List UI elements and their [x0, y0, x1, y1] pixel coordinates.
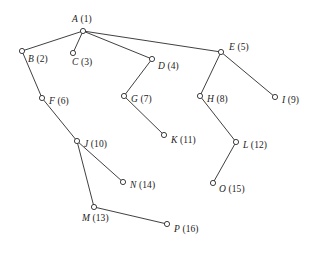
node-label-number-f: (6) — [55, 96, 69, 106]
node-circle-i[interactable] — [272, 94, 277, 99]
node-circle-g[interactable] — [121, 93, 126, 98]
node-label-number-n: (14) — [136, 180, 155, 190]
node-label-h: H (8) — [207, 95, 228, 105]
node-label-number-a: (1) — [78, 14, 92, 24]
node-label-number-b: (2) — [34, 54, 48, 64]
node-circle-o[interactable] — [210, 180, 215, 185]
node-label-l: L (12) — [243, 141, 267, 151]
node-label-o: O (15) — [219, 185, 245, 195]
node-circle-j[interactable] — [74, 138, 79, 143]
tree-graph-canvas — [0, 0, 320, 254]
node-label-number-i: (9) — [285, 95, 299, 105]
node-circle-n[interactable] — [120, 179, 125, 184]
node-label-m: M (13) — [82, 214, 109, 224]
node-label-number-j: (10) — [88, 139, 107, 149]
edge-d-g — [124, 59, 152, 96]
node-label-j: J (10) — [84, 140, 107, 150]
node-label-d: D (4) — [158, 62, 179, 72]
node-label-number-o: (15) — [226, 184, 245, 194]
node-label-number-d: (4) — [165, 61, 179, 71]
node-label-n: N (14) — [130, 181, 155, 191]
node-label-letter-o: O — [219, 184, 226, 194]
node-label-c: C (3) — [72, 58, 92, 68]
node-label-b: B (2) — [28, 55, 48, 65]
node-label-number-c: (3) — [78, 57, 92, 67]
node-label-number-m: (13) — [90, 213, 109, 223]
node-circle-e[interactable] — [218, 49, 223, 54]
tree-diagram: A (1)B (2)C (3)D (4)E (5)F (6)G (7)H (8)… — [0, 0, 320, 254]
nodes-group — [19, 28, 277, 226]
edge-l-o — [213, 142, 236, 183]
node-circle-c[interactable] — [70, 50, 75, 55]
node-label-number-h: (8) — [214, 94, 228, 104]
edge-a-b — [22, 31, 83, 51]
edge-e-i — [221, 52, 275, 97]
node-circle-h[interactable] — [197, 93, 202, 98]
node-label-letter-h: H — [207, 94, 214, 104]
node-label-i: I (9) — [282, 96, 299, 106]
node-label-k: K (11) — [171, 136, 196, 146]
node-label-number-l: (12) — [248, 140, 267, 150]
node-circle-b[interactable] — [19, 48, 24, 53]
node-label-number-p: (16) — [180, 224, 199, 234]
node-circle-l[interactable] — [233, 139, 238, 144]
edge-j-m — [77, 141, 94, 207]
node-label-p: P (16) — [174, 225, 199, 235]
node-label-number-g: (7) — [138, 94, 152, 104]
edge-a-e — [83, 31, 221, 52]
node-label-letter-g: G — [131, 94, 138, 104]
node-circle-k[interactable] — [161, 132, 166, 137]
node-circle-d[interactable] — [149, 56, 154, 61]
edge-a-d — [83, 31, 152, 59]
node-label-letter-d: D — [158, 61, 165, 71]
node-label-f: F (6) — [49, 97, 69, 107]
node-circle-f[interactable] — [39, 95, 44, 100]
node-label-e: E (5) — [229, 43, 249, 53]
edge-a-c — [73, 31, 83, 53]
node-circle-m[interactable] — [91, 204, 96, 209]
node-label-number-e: (5) — [235, 42, 249, 52]
node-circle-p[interactable] — [164, 221, 169, 226]
node-circle-a[interactable] — [80, 28, 85, 33]
node-label-number-k: (11) — [177, 135, 195, 145]
node-label-g: G (7) — [131, 95, 152, 105]
edges-group — [22, 31, 275, 224]
node-label-a: A (1) — [72, 15, 92, 25]
edge-e-h — [200, 52, 221, 96]
node-label-letter-m: M — [82, 213, 90, 223]
